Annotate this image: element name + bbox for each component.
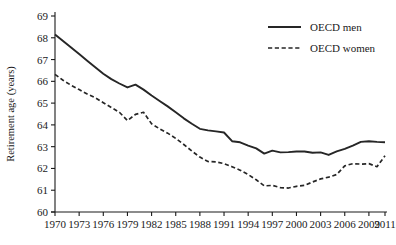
x-axis-tick-label: 2006 [334,218,357,230]
x-axis-tick-label: 1997 [261,218,284,230]
x-axis-tick-label: 2003 [310,218,333,230]
y-axis-title: Retirement age (years) [5,66,17,162]
y-axis-tick-label: 67 [37,54,49,66]
retirement-age-line-chart: 60616263646566676869 1970197319761979198… [0,0,396,245]
y-axis-tick-label: 64 [37,119,49,131]
x-axis: 1970197319761979198219851988199119941997… [44,212,396,230]
y-axis: 60616263646566676869 [37,10,55,218]
x-axis-tick-label: 1973 [68,218,91,230]
chart-legend: OECD menOECD women [268,21,376,54]
y-axis-tick-label: 63 [37,141,49,153]
legend-label-oecd-women: OECD women [310,42,376,54]
y-axis-tick-label: 66 [37,75,49,87]
x-axis-tick-label: 1985 [165,218,188,230]
x-axis-tick-label: 1970 [44,218,67,230]
y-axis-tick-label: 60 [37,206,49,218]
y-axis-tick-label: 68 [37,32,49,44]
x-axis-tick-label: 1994 [237,218,260,230]
y-axis-tick-label: 69 [37,10,49,22]
x-axis-tick-label: 2011 [374,218,396,230]
x-axis-tick-label: 1991 [213,218,235,230]
x-axis-tick-label: 2000 [285,218,308,230]
y-axis-tick-label: 65 [37,97,49,109]
chart-canvas: 60616263646566676869 1970197319761979198… [0,0,396,245]
y-axis-tick-label: 61 [37,184,48,196]
x-axis-tick-label: 1976 [92,218,115,230]
y-axis-title-label: Retirement age (years) [5,66,17,162]
x-axis-tick-label: 1988 [189,218,212,230]
y-axis-tick-label: 62 [37,162,48,174]
x-axis-tick-label: 1979 [116,218,139,230]
x-axis-tick-label: 1982 [141,218,163,230]
data-series-group [55,35,385,189]
legend-label-oecd-men: OECD men [310,21,362,33]
